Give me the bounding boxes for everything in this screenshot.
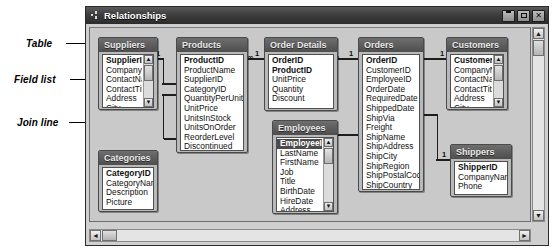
field-item[interactable]: LastName [277,149,322,159]
scroll-left-icon[interactable]: ◄ [90,230,101,241]
field-list[interactable]: OrderID ProductID UnitPrice Quantity Dis… [268,54,334,109]
table-title[interactable]: Employees [273,121,337,135]
field-item[interactable]: HireDate [277,197,322,207]
table-suppliers[interactable]: Suppliers SupplierID CompanyNam ContactN… [98,37,158,110]
field-item[interactable]: EmployeeID [277,139,322,149]
scroll-right-icon[interactable]: ► [519,230,530,241]
field-item[interactable]: Discount [269,94,333,104]
minimize-button[interactable] [502,10,515,22]
relationships-canvas[interactable]: 1 ∞ 1 ∞ 1 ∞ 1 ∞ 1 ∞ [89,27,531,222]
field-item[interactable]: Picture [103,198,153,208]
field-item[interactable]: ContactTitle [451,85,492,95]
field-list[interactable]: ShipperID CompanyName Phone [454,161,508,195]
field-item[interactable]: CategoryID [103,169,153,179]
table-orders[interactable]: Orders OrderID CustomerID EmployeeID Ord… [358,37,424,192]
horizontal-scrollbar[interactable]: ◄ ► [89,229,531,242]
field-item[interactable]: Quantity [269,85,333,95]
table-shippers[interactable]: Shippers ShipperID CompanyName Phone [450,144,512,197]
field-item[interactable]: City [451,104,492,108]
field-item[interactable]: ShipCity [363,152,419,162]
field-item[interactable]: CustomerID [451,56,492,66]
field-item[interactable]: UnitPrice [269,75,333,85]
field-item[interactable]: UnitPrice [181,104,243,114]
scrollbar-thumb[interactable] [494,65,503,81]
field-item[interactable]: Address [277,206,322,212]
table-title[interactable]: Categories [99,151,157,165]
scroll-up-icon[interactable]: ▲ [494,55,503,64]
join-line[interactable] [436,159,450,161]
table-order-details[interactable]: Order Details OrderID ProductID UnitPric… [264,37,338,111]
field-list[interactable]: CategoryID CategoryName Description Pict… [102,167,154,210]
table-employees[interactable]: Employees EmployeeID LastName FirstName … [272,120,338,214]
field-item[interactable]: UnitsOnOrder [181,123,243,133]
field-item[interactable]: ShipRegion [363,162,419,172]
field-item[interactable]: ShipName [363,133,419,143]
window-titlebar[interactable]: Relationships ✕ [86,7,548,24]
field-list[interactable]: SupplierID CompanyNam ContactName Contac… [102,54,154,108]
field-item[interactable]: Job [277,168,322,178]
scroll-down-icon[interactable]: ▼ [533,210,544,221]
field-item[interactable]: ShipVia [363,114,419,124]
scroll-down-icon[interactable]: ▼ [144,98,153,107]
field-item[interactable]: Address [103,94,142,104]
join-line[interactable] [163,58,165,84]
scrollbar-thumb[interactable] [533,40,544,56]
scroll-up-icon[interactable]: ▲ [533,28,544,39]
field-item[interactable]: Freight [363,123,419,133]
join-line[interactable] [163,94,165,139]
table-title[interactable]: Products [177,38,247,52]
table-title[interactable]: Orders [359,38,423,52]
field-list[interactable]: EmployeeID LastName FirstName Job Title … [276,137,334,212]
field-item[interactable]: Title [277,177,322,187]
field-item[interactable]: ShipAddress [363,142,419,152]
scroll-up-icon[interactable]: ▲ [324,138,333,147]
field-list[interactable]: CustomerID CompanyNam ContactName Contac… [450,54,504,108]
table-title[interactable]: Order Details [265,38,337,52]
field-item[interactable]: EmployeeID [363,75,419,85]
field-list-scrollbar[interactable]: ▲ ▼ [323,138,333,211]
field-item[interactable]: SupplierID [103,56,142,66]
field-item[interactable]: ContactTitle [103,85,142,95]
field-item[interactable]: OrderDate [363,85,419,95]
field-item[interactable]: OrderID [269,56,333,66]
field-item[interactable]: Phone [455,182,507,192]
table-customers[interactable]: Customers CustomerID CompanyNam ContactN… [446,37,508,110]
table-products[interactable]: Products ProductID ProductName SupplierI… [176,37,248,153]
join-line[interactable] [162,94,176,96]
field-item[interactable]: CompanyNam [103,66,142,76]
field-item[interactable]: SupplierID [181,75,243,85]
field-item[interactable]: ShipperID [455,163,507,173]
field-item[interactable]: UnitsInStock [181,114,243,124]
close-button[interactable]: ✕ [532,10,545,22]
field-item[interactable]: CompanyNam [451,66,492,76]
field-item[interactable]: ShipCountry [363,181,419,190]
field-item[interactable]: CompanyName [455,173,507,183]
field-item[interactable]: Discontinued [181,142,243,151]
field-item[interactable]: ProductID [181,56,243,66]
field-item[interactable]: ProductID [269,66,333,76]
field-list[interactable]: ProductID ProductName SupplierID Categor… [180,54,244,151]
field-item[interactable]: ContactName [103,75,142,85]
field-item[interactable]: OrderID [363,56,419,66]
join-line[interactable] [424,58,446,60]
join-line[interactable] [162,83,176,85]
field-item[interactable]: QuantityPerUnit [181,94,243,104]
scroll-down-icon[interactable]: ▼ [324,202,333,211]
field-list-scrollbar[interactable]: ▲ ▼ [493,55,503,107]
table-title[interactable]: Customers [447,38,507,52]
field-item[interactable]: CustomerID [363,66,419,76]
field-list[interactable]: OrderID CustomerID EmployeeID OrderDate … [362,54,420,190]
field-item[interactable]: ShippedDate [363,104,419,114]
field-item[interactable]: CategoryName [103,179,153,189]
field-item[interactable]: FirstName [277,158,322,168]
scroll-down-icon[interactable]: ▼ [494,98,503,107]
field-item[interactable]: Address [451,94,492,104]
field-item[interactable]: ShipPostalCode [363,171,419,181]
field-item[interactable]: BirthDate [277,187,322,197]
join-line[interactable] [338,58,358,60]
field-item[interactable]: ReorderLevel [181,133,243,143]
scroll-up-icon[interactable]: ▲ [144,55,153,64]
vertical-scrollbar[interactable]: ▲ ▼ [532,27,545,222]
table-categories[interactable]: Categories CategoryID CategoryName Descr… [98,150,158,212]
scrollbar-thumb[interactable] [324,148,333,164]
